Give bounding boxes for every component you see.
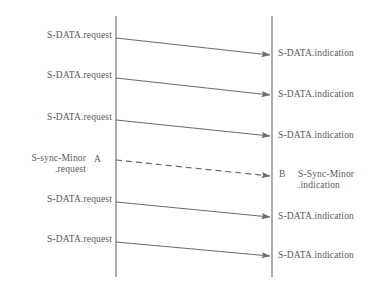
message-arrow-4: [116, 160, 270, 176]
message-source-label-4: S-sync-Minor .request: [31, 153, 86, 175]
message-target-label-6: S-DATA.indication: [278, 250, 354, 261]
lifelines-group: [116, 16, 272, 277]
message-target-label-3: S-DATA.indication: [278, 130, 354, 141]
message-target-label-1: S-DATA.indication: [278, 48, 354, 59]
message-arrow-1: [116, 38, 270, 55]
message-target-label-4: S-Sync-Minor .indication: [298, 169, 354, 191]
sequence-diagram: S-DATA.requestS-DATA.indicationS-DATA.re…: [0, 0, 386, 296]
message-target-label-5: S-DATA.indication: [278, 211, 354, 222]
message-arrow-6: [116, 242, 270, 256]
message-arrow-3: [116, 120, 270, 136]
sync-point-marker-b: B: [279, 169, 285, 180]
message-arrow-5: [116, 202, 270, 217]
message-arrow-2: [116, 78, 270, 95]
message-source-label-2: S-DATA.request: [47, 70, 112, 81]
message-source-label-1: S-DATA.request: [47, 30, 112, 41]
message-source-label-3: S-DATA.request: [47, 112, 112, 123]
messages-group: [116, 38, 270, 256]
message-target-label-2: S-DATA.indication: [278, 89, 354, 100]
sync-point-marker-a: A: [94, 154, 101, 165]
message-source-label-6: S-DATA.request: [47, 234, 112, 245]
message-source-label-5: S-DATA.request: [47, 194, 112, 205]
